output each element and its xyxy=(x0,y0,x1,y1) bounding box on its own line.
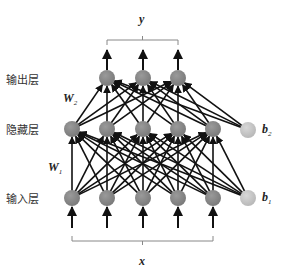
output-vector-label: y xyxy=(139,12,144,27)
input-neuron xyxy=(135,190,151,206)
input-brace xyxy=(72,236,213,245)
output-neuron xyxy=(135,70,151,86)
network-graph xyxy=(0,0,289,273)
hidden-neuron xyxy=(205,121,221,137)
connection-edge xyxy=(184,83,244,127)
connection-edge xyxy=(76,136,105,194)
weight-w2-label: W2 xyxy=(63,91,77,107)
output-neuron xyxy=(99,70,115,86)
connection-edge xyxy=(75,85,103,125)
bias-b2-label: b2 xyxy=(262,122,272,138)
input-neuron xyxy=(99,190,115,206)
bias-node-b1 xyxy=(240,190,256,206)
input-neuron xyxy=(205,190,221,206)
output-brace xyxy=(107,36,178,45)
bias-b1-label: b1 xyxy=(262,190,272,206)
connection-edge xyxy=(79,133,209,196)
input-vector-label: x xyxy=(139,254,145,269)
hidden-neuron xyxy=(135,121,151,137)
hidden-neuron xyxy=(99,121,115,137)
hidden-neuron xyxy=(64,121,80,137)
hidden-neuron xyxy=(170,121,186,137)
output-neuron xyxy=(170,70,186,86)
connection-edge xyxy=(114,133,244,196)
neural-network-diagram: 输出层 隐藏层 输入层 W2 W1 b2 b1 y x xyxy=(0,0,289,273)
output-layer-label: 输出层 xyxy=(6,71,39,87)
input-neuron xyxy=(170,190,186,206)
hidden-layer-label: 隐藏层 xyxy=(6,121,39,137)
weight-w1-label: W1 xyxy=(48,160,62,176)
input-neuron xyxy=(64,190,80,206)
bias-node-b2 xyxy=(240,122,256,138)
input-layer-label: 输入层 xyxy=(6,190,39,206)
